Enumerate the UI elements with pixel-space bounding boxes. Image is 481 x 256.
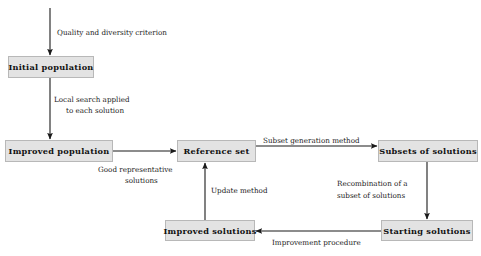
node-starting-solutions-label: Starting solutions xyxy=(383,226,470,236)
edge-label-good-representative: Good representative xyxy=(98,165,173,176)
node-improved-solutions-label: Improved solutions xyxy=(163,226,256,236)
edge-label-recombination-of-a: Recombination of a xyxy=(337,179,408,190)
edge-label-to-each-solution: to each solution xyxy=(66,106,124,117)
edge-label-local-search-applied: Local search applied xyxy=(54,95,130,106)
node-starting-solutions[interactable]: Starting solutions xyxy=(381,220,473,241)
node-improved-solutions[interactable]: Improved solutions xyxy=(165,220,255,241)
node-improved-population[interactable]: Improved population xyxy=(5,140,113,162)
edge-label-subset-generation-method: Subset generation method xyxy=(263,136,360,147)
node-reference-set-label: Reference set xyxy=(183,146,249,156)
node-subsets-of-solutions[interactable]: Subsets of solutions xyxy=(378,140,478,162)
edge-label-solutions: solutions xyxy=(125,176,158,187)
edge-label-improvement-procedure: Improvement procedure xyxy=(272,238,361,249)
node-initial-population[interactable]: Initial population xyxy=(8,56,94,78)
edge-label-quality-and-diversity-criterion: Quality and diversity criterion xyxy=(57,28,167,39)
node-subsets-of-solutions-label: Subsets of solutions xyxy=(379,146,477,156)
diagram-canvas: Initial population Improved population R… xyxy=(0,0,481,256)
node-initial-population-label: Initial population xyxy=(8,62,93,72)
edge-label-subset-of-solutions: subset of solutions xyxy=(337,191,405,202)
node-reference-set[interactable]: Reference set xyxy=(177,140,256,162)
node-improved-population-label: Improved population xyxy=(9,146,110,156)
edge-label-update-method: Update method xyxy=(211,186,268,197)
